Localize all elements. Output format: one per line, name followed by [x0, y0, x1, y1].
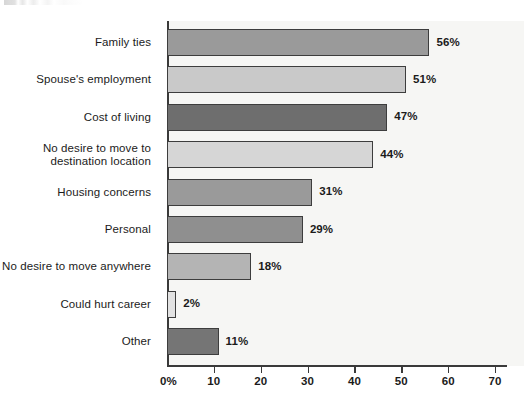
bar-value-label: 29%: [310, 223, 333, 235]
bar: [167, 104, 387, 131]
x-axis-tick-mark: [354, 366, 355, 373]
x-axis-tick-label: 10: [207, 375, 220, 387]
bar-value-label: 2%: [183, 297, 200, 309]
bar-value-label: 44%: [380, 148, 403, 160]
bar: [167, 141, 373, 168]
category-label: Housing concerns: [0, 186, 160, 199]
x-axis-tick-label: 70: [489, 375, 502, 387]
bar: [167, 66, 406, 93]
x-axis-tick-label: 20: [254, 375, 267, 387]
bar: [167, 253, 251, 280]
bar-value-label: 18%: [258, 260, 281, 272]
bar-value-label: 51%: [413, 73, 436, 85]
bar: [167, 216, 303, 243]
x-axis-tick-label: 30: [301, 375, 314, 387]
bar-value-label: 11%: [226, 335, 249, 347]
x-axis-tick-mark: [495, 366, 496, 373]
category-label: Personal: [0, 223, 160, 236]
category-axis-labels: Family tiesSpouse's employmentCost of li…: [0, 21, 160, 366]
category-label: Other: [0, 335, 160, 348]
x-axis-tick-label: 40: [348, 375, 361, 387]
category-label: Spouse's employment: [0, 73, 160, 86]
category-label: Could hurt career: [0, 298, 160, 311]
x-axis-tick-label: 0%: [160, 375, 177, 387]
x-axis-tick-label: 50: [395, 375, 408, 387]
category-label: Cost of living: [0, 111, 160, 124]
cut-off-text-artifact: [4, 0, 82, 5]
x-axis-tick-mark: [448, 366, 449, 373]
category-label: Family ties: [0, 36, 160, 49]
x-axis-tick-label: 60: [442, 375, 455, 387]
category-label: No desire to move anywhere: [0, 260, 160, 273]
x-axis-tick-mark: [261, 366, 262, 373]
bar-value-label: 47%: [394, 110, 417, 122]
category-label: No desire to move todestination location: [0, 142, 160, 168]
bar-value-label: 31%: [319, 185, 342, 197]
x-axis-tick-mark: [308, 366, 309, 373]
bar: [167, 328, 219, 355]
bar-value-label: 56%: [436, 36, 459, 48]
x-axis-tick-mark: [401, 366, 402, 373]
x-axis-tick-mark: [214, 366, 215, 373]
bar: [167, 179, 312, 206]
bar: [167, 291, 176, 318]
chart-page: Family tiesSpouse's employmentCost of li…: [0, 0, 524, 399]
bar: [167, 29, 429, 56]
x-axis-line: [167, 365, 507, 367]
